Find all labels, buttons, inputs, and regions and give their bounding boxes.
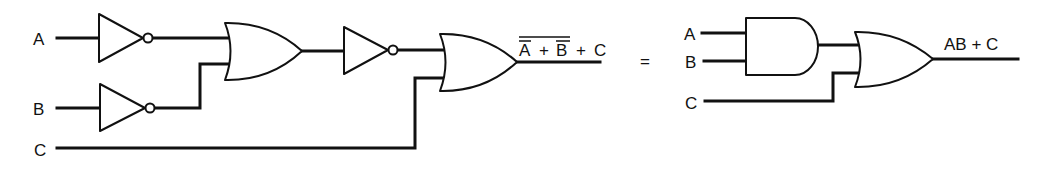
not-gate-a xyxy=(99,14,153,62)
right-input-label-c: C xyxy=(685,94,697,113)
logic-diagram: A B C A + xyxy=(0,0,1047,176)
or-gate-1 xyxy=(225,23,302,80)
equals-sign: = xyxy=(640,52,650,71)
not-gate-a-triangle xyxy=(99,14,143,62)
output-term-a: A xyxy=(519,41,531,60)
right-input-label-a: A xyxy=(684,25,696,44)
output-plus-1: + xyxy=(539,41,549,60)
left-circuit: A B C A + xyxy=(33,14,606,160)
right-input-label-b: B xyxy=(685,53,696,72)
not-gate-a-bubble xyxy=(144,34,153,43)
output-plus-2: + xyxy=(576,41,586,60)
left-output-label: A + B + C xyxy=(519,37,606,60)
not-gate-b xyxy=(100,84,155,131)
output-term-b: B xyxy=(556,41,567,60)
not-gate-b-bubble xyxy=(146,104,155,113)
circuit-canvas: A B C A + xyxy=(0,0,1047,176)
right-output-label: AB + C xyxy=(944,35,998,54)
input-label-a: A xyxy=(33,30,45,49)
or-gate-2 xyxy=(440,34,517,91)
right-circuit: A B C AB + C xyxy=(684,18,1018,113)
wire-right-c xyxy=(705,73,859,101)
not-gate-or xyxy=(344,27,398,74)
wire-notb-to-or1 xyxy=(155,64,229,108)
output-term-c: C xyxy=(594,41,606,60)
not-gate-b-triangle xyxy=(100,84,145,131)
or-gate-3 xyxy=(855,32,933,87)
input-label-c: C xyxy=(34,141,46,160)
not-gate-or-triangle xyxy=(344,27,388,74)
not-gate-or-bubble xyxy=(389,46,398,55)
input-label-b: B xyxy=(33,100,44,119)
and-gate xyxy=(746,18,818,75)
